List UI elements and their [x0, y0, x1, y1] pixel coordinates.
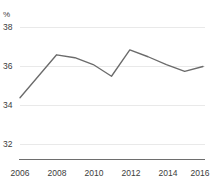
line-chart: % 38 36 34 32 2006 2008 2010 2012 2014 2… [0, 0, 215, 187]
x-axis-tick-label-2006: 2006 [11, 168, 30, 178]
x-axis-tick-label-2012: 2012 [122, 168, 141, 178]
x-axis-tick-label-2014: 2014 [159, 168, 178, 178]
x-axis-tick-label-2016: 2016 [191, 168, 210, 178]
plot-area [0, 0, 215, 187]
data-series-line [20, 50, 203, 98]
x-axis-tick-label-2008: 2008 [48, 168, 67, 178]
x-axis-tick-label-2010: 2010 [85, 168, 104, 178]
